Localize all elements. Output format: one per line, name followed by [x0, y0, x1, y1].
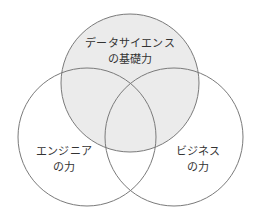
label-data-science-line-2: の基礎力: [85, 52, 175, 68]
label-business: ビジネス の力: [176, 144, 221, 176]
label-business-line-2: の力: [176, 160, 221, 176]
label-engineering-line-2: の力: [36, 160, 92, 176]
label-data-science: データサイエンス の基礎力: [85, 36, 175, 68]
venn-diagram: [0, 0, 258, 217]
label-engineering: エンジニア の力: [36, 144, 92, 176]
label-business-line-1: ビジネス: [176, 144, 221, 160]
label-engineering-line-1: エンジニア: [36, 144, 92, 160]
label-data-science-line-1: データサイエンス: [85, 36, 175, 52]
